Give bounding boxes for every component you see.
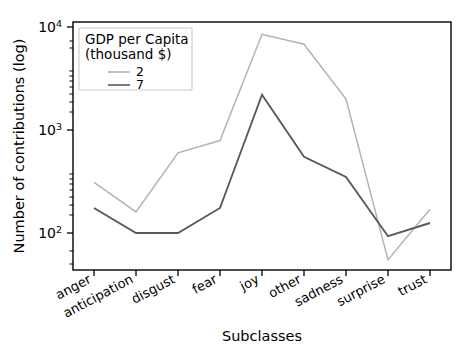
y-axis-label: Number of contributions (log) [11, 39, 27, 254]
x-axis-label: Subclasses [222, 328, 302, 344]
chart-figure: 102 103 104 angeranticipationdisgustfear… [0, 0, 474, 354]
legend-label-series-7: 7 [136, 77, 144, 92]
y-tick-exponent-100: 2 [56, 224, 62, 235]
series-line-7 [94, 95, 430, 237]
y-tick-mantissa-100: 10 [38, 225, 56, 241]
legend-title-line1: GDP per Capita [85, 31, 189, 47]
x-tick-labels: angeranticipationdisgustfearjoyothersadn… [53, 271, 429, 321]
y-axis-major-ticks [67, 27, 73, 233]
y-tick-labels: 102 103 104 [38, 18, 62, 241]
x-tick-label-joy: joy [236, 271, 261, 294]
legend: GDP per Capita (thousand $) 2 7 [79, 28, 192, 92]
x-tick-label-trust: trust [395, 271, 429, 299]
x-tick-label-fear: fear [190, 271, 220, 297]
svg-text:102: 102 [38, 224, 62, 241]
legend-title-line2: (thousand $) [85, 46, 172, 62]
y-tick-mantissa-1000: 10 [38, 122, 56, 138]
svg-text:104: 104 [38, 18, 62, 35]
y-tick-exponent-1000: 3 [56, 121, 62, 132]
line-chart: 102 103 104 angeranticipationdisgustfear… [0, 0, 474, 354]
x-tick-label-surprise: surprise [334, 271, 387, 309]
x-tick-label-disgust: disgust [129, 271, 178, 306]
y-tick-exponent-10000: 4 [56, 18, 62, 29]
y-tick-mantissa-10000: 10 [38, 19, 56, 35]
svg-text:103: 103 [38, 121, 62, 138]
